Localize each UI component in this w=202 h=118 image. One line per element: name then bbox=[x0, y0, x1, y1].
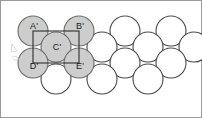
sphere-label: C' bbox=[53, 42, 62, 52]
scan-artifact-mark bbox=[11, 44, 17, 52]
scan-artifact-mark bbox=[12, 56, 19, 60]
sphere-open bbox=[133, 64, 163, 94]
sphere-layer bbox=[18, 16, 202, 94]
sphere-label: B' bbox=[76, 21, 84, 31]
figure-canvas: A'B'C'D'E' bbox=[0, 0, 202, 118]
sphere-label: D' bbox=[30, 61, 39, 71]
sphere-label: A' bbox=[30, 21, 38, 31]
sphere-label: E' bbox=[76, 61, 84, 71]
artifact-layer bbox=[11, 44, 19, 61]
sphere-packing-figure: A'B'C'D'E' bbox=[0, 0, 202, 118]
